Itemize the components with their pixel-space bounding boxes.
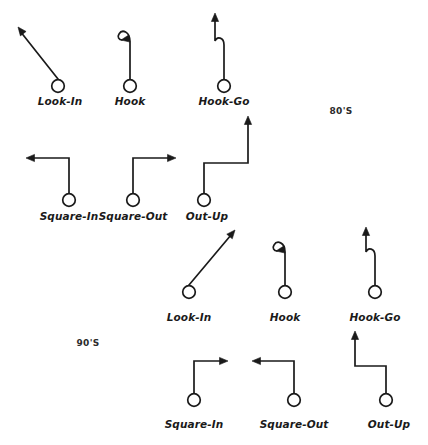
route-origin-marker-hook-go-80s [218,80,231,93]
route-tree-figure: 80'S 90'S Look-In Hook Hook-Go Square-In… [0,0,428,445]
route-label-square-in-90s: Square-In [165,418,224,430]
route-out-up-80s [198,116,252,206]
route-path-square-in-90s [194,361,222,393]
route-path-out-up-80s [204,122,248,193]
route-origin-marker-square-out-80s [127,194,140,207]
route-label-look-in-80s: Look-In [38,95,83,107]
route-arrowhead-out-up-80s [244,116,251,125]
route-label-look-in-90s: Look-In [167,311,212,323]
route-arrowhead-hook-go-90s [362,227,369,236]
route-arrowhead-hook-80s [121,35,130,42]
route-label-hook-80s: Hook [115,95,146,107]
route-diagram-svg [0,0,428,445]
route-arrowhead-square-in-90s [220,357,229,364]
route-hook-90s [273,242,291,298]
route-arrowhead-look-in-80s [18,27,26,36]
route-origin-marker-out-up-90s [380,394,393,407]
route-arrowhead-square-in-80s [26,154,35,161]
route-origin-marker-square-in-80s [63,194,76,207]
route-path-square-in-80s [32,158,69,193]
route-label-out-up-90s: Out-Up [368,418,410,430]
route-square-in-80s [26,154,75,206]
route-arrowhead-hook-go-80s [211,13,218,22]
route-origin-marker-hook-90s [279,286,292,299]
route-label-hook-90s: Hook [270,311,301,323]
route-path-out-up-90s [355,337,386,393]
route-label-square-out-90s: Square-Out [260,418,329,430]
route-label-hook-go-90s: Hook-Go [349,311,400,323]
route-label-out-up-80s: Out-Up [186,210,228,222]
route-origin-marker-hook-80s [124,80,137,93]
route-path-look-in-80s [20,31,58,79]
route-out-up-90s [351,331,392,406]
route-square-out-90s [252,357,300,406]
route-path-square-out-80s [133,158,170,193]
route-origin-marker-square-in-90s [188,394,201,407]
route-arrowhead-square-out-80s [168,154,177,161]
route-hook-80s [118,31,136,92]
route-origin-marker-out-up-80s [198,194,211,207]
route-origin-marker-look-in-80s [52,80,65,93]
route-label-square-in-80s: Square-In [40,210,99,222]
route-arrowhead-square-out-90s [252,357,261,364]
route-look-in-90s [183,230,235,298]
route-look-in-80s [18,27,64,92]
route-square-in-90s [188,357,228,406]
route-origin-marker-hook-go-90s [369,286,382,299]
route-arrowhead-out-up-90s [351,331,358,340]
route-label-hook-go-80s: Hook-Go [198,95,249,107]
route-square-out-80s [127,154,176,206]
route-origin-marker-square-out-90s [288,394,301,407]
route-origin-marker-look-in-90s [183,286,196,299]
era-label-90s: 90'S [77,338,100,348]
route-arrowhead-hook-90s [276,246,285,253]
route-path-hook-go-90s [366,232,375,285]
route-label-square-out-80s: Square-Out [99,210,168,222]
route-path-square-out-90s [258,361,294,393]
route-path-look-in-90s [189,235,231,285]
route-hook-go-90s [362,227,381,298]
route-hook-go-80s [211,13,230,92]
route-path-hook-go-80s [215,18,224,79]
era-label-80s: 80'S [330,106,353,116]
